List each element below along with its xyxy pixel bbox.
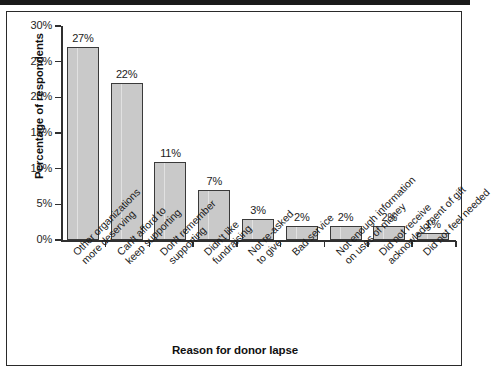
y-axis-tick-label: 10%	[6, 162, 52, 174]
top-black-band	[0, 0, 470, 5]
bar-value-label: 22%	[107, 68, 147, 80]
x-axis-tick	[455, 241, 457, 247]
y-axis-title: Percentage of respondents	[33, 1, 45, 211]
bar-value-label: 27%	[63, 32, 103, 44]
y-axis-tick-label: 0%	[6, 233, 52, 245]
y-axis-tick-label: 25%	[6, 55, 52, 67]
x-axis-tick	[324, 241, 326, 247]
y-axis-tick-label: 5%	[6, 197, 52, 209]
y-axis-tick-label: 15%	[6, 126, 52, 138]
x-axis-title: Reason for donor lapse	[0, 344, 470, 356]
bar-value-label: 7%	[194, 175, 234, 187]
y-axis-tick-label: 20%	[6, 90, 52, 102]
y-axis-tick-label: 30%	[6, 19, 52, 31]
bar-value-label: 3%	[238, 204, 278, 216]
bar-value-label: 11%	[150, 147, 190, 159]
bar	[67, 47, 99, 240]
